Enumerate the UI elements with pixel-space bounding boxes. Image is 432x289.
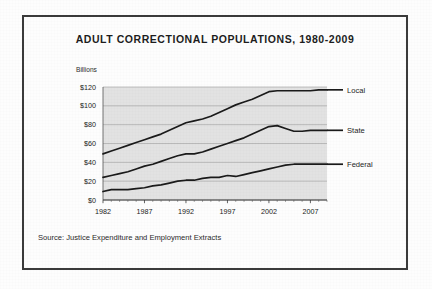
chart-figure: ADULT CORRECTIONAL POPULATIONS, 1980-200…	[0, 0, 432, 289]
y-axis-tick-label: $120	[80, 83, 96, 92]
x-axis-ticks-group: 198219871992199720022007	[95, 200, 318, 216]
y-axis-tick-label: $80	[84, 120, 96, 129]
x-axis-tick-label: 2002	[261, 207, 277, 216]
y-axis-tick-label: $100	[80, 101, 96, 110]
series-label-local: Local	[347, 86, 365, 95]
source-note: Source: Justice Expenditure and Employme…	[38, 233, 221, 242]
y-axis-tick-label: $40	[84, 158, 96, 167]
x-axis-tick-label: 1987	[136, 207, 152, 216]
x-axis-tick-label: 1992	[178, 207, 194, 216]
series-labels-group: LocalStateFederal	[347, 86, 373, 169]
y-axis-ticks-group: $0$20$40$60$80$100$120	[80, 83, 96, 205]
x-axis-tick-label: 2007	[302, 207, 318, 216]
y-axis-tick-label: $60	[84, 139, 96, 148]
chart-frame-border: ADULT CORRECTIONAL POPULATIONS, 1980-200…	[22, 15, 408, 270]
series-label-state: State	[347, 126, 365, 135]
y-axis-tick-label: $20	[84, 177, 96, 186]
x-axis-tick-label: 1982	[95, 207, 111, 216]
x-axis-tick-label: 1997	[219, 207, 235, 216]
series-label-federal: Federal	[347, 160, 373, 169]
y-axis-tick-label: $0	[88, 196, 96, 205]
